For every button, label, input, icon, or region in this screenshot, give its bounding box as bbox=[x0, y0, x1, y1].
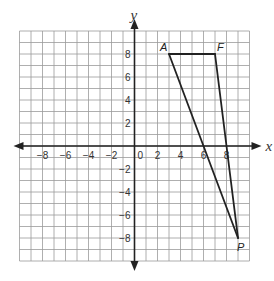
y-tick-label: −8 bbox=[119, 233, 131, 244]
x-axis-arrow-right-icon bbox=[252, 142, 262, 150]
y-tick-label: −6 bbox=[119, 210, 131, 221]
y-tick-label: 2 bbox=[125, 118, 131, 129]
y-tick-label: 6 bbox=[125, 72, 131, 83]
x-tick-label: −6 bbox=[60, 150, 72, 161]
y-tick-label: 4 bbox=[125, 95, 131, 106]
point-label-p: P bbox=[237, 241, 245, 253]
x-tick-label: 2 bbox=[155, 150, 161, 161]
axes: xy bbox=[14, 7, 273, 271]
origin-label: 0 bbox=[138, 150, 144, 161]
x-tick-label: 4 bbox=[178, 150, 184, 161]
y-axis-arrow-down-icon bbox=[131, 261, 139, 271]
y-tick-label: 8 bbox=[125, 49, 131, 60]
y-axis-label: y bbox=[129, 7, 138, 23]
x-axis-label: x bbox=[265, 138, 273, 154]
y-tick-label: −4 bbox=[119, 187, 131, 198]
point-label-a: A bbox=[159, 41, 167, 53]
x-tick-label: −4 bbox=[83, 150, 95, 161]
x-axis-arrow-left-icon bbox=[14, 142, 24, 150]
x-tick-label: −8 bbox=[37, 150, 49, 161]
coordinate-plane: xy −8−6−4−224688642−2−4−6−80 AFP bbox=[0, 0, 274, 281]
x-tick-label: −2 bbox=[106, 150, 118, 161]
y-tick-label: −2 bbox=[119, 164, 131, 175]
